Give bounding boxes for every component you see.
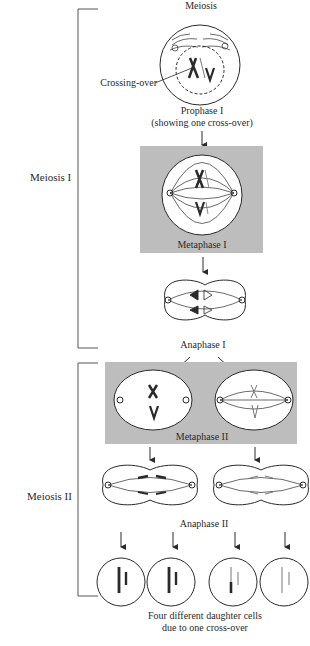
anaphase-2-cell-right xyxy=(214,465,309,505)
daughter-cell-2 xyxy=(147,558,195,606)
metaphase-2-label: Metaphase II xyxy=(170,431,234,442)
daughter-cell-1 xyxy=(97,558,145,606)
anaphase-1-cell xyxy=(165,280,246,320)
meiosis-diagram xyxy=(0,0,310,646)
metaphase-1-cell xyxy=(162,155,242,235)
daughter-cells-label-line1: Four different daughter cells xyxy=(140,610,270,621)
daughter-cell-3 xyxy=(209,558,257,606)
daughter-cells-label-line2: due to one cross-over xyxy=(150,622,260,633)
crossing-over-annotation: Crossing-over xyxy=(95,77,157,88)
prophase-1-sublabel: (showing one cross-over) xyxy=(148,117,256,128)
prophase-1-cell xyxy=(155,25,240,105)
prophase-1-label: Prophase I xyxy=(170,105,234,116)
bracket-meiosis-2 xyxy=(78,363,98,596)
anaphase-1-label: Anaphase I xyxy=(175,339,231,350)
diagram-title: Meiosis xyxy=(175,0,227,11)
metaphase-2-cell-left xyxy=(114,370,192,430)
anaphase-2-label: Anaphase II xyxy=(174,518,234,529)
metaphase-2-cell-right xyxy=(215,370,293,430)
section-label-meiosis-1: Meiosis I xyxy=(30,171,71,183)
section-label-meiosis-2: Meiosis II xyxy=(27,490,72,502)
metaphase-1-label: Metaphase I xyxy=(170,239,234,250)
daughter-cell-4 xyxy=(260,558,308,606)
anaphase-2-cell-left xyxy=(103,465,198,505)
bracket-meiosis-1 xyxy=(78,9,98,348)
